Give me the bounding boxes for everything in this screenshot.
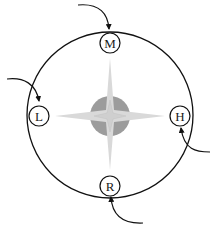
node-m: M <box>100 33 120 53</box>
node-r-label: R <box>106 179 115 194</box>
node-l-label: L <box>35 109 43 124</box>
node-m-label: M <box>104 36 116 51</box>
compass-diagram: M L H R <box>0 0 216 229</box>
node-h-label: H <box>175 109 184 124</box>
arrow-to-m <box>78 5 109 29</box>
node-h: H <box>170 106 190 126</box>
node-r: R <box>100 176 120 196</box>
node-l: L <box>29 106 49 126</box>
arrow-to-r <box>111 197 143 223</box>
